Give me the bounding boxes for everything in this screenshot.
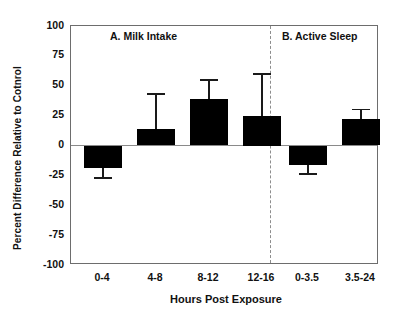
- y-tick-label: -25: [22, 169, 64, 180]
- bar: [243, 116, 281, 146]
- x-axis-title: Hours Post Exposure: [0, 293, 400, 305]
- error-bar-cap: [94, 177, 112, 179]
- y-tick-label: 25: [22, 109, 64, 120]
- x-tick-label: 8-12: [197, 271, 218, 283]
- plot-area: [70, 25, 378, 264]
- error-bar-cap: [147, 93, 165, 95]
- panel-a-title: A. Milk Intake: [110, 30, 177, 42]
- bar-chart-figure: Percent Difference Relative to Cotnrol 1…: [0, 0, 400, 319]
- x-tick-label: 3.5-24: [345, 271, 375, 283]
- bar: [342, 119, 380, 145]
- y-axis-tick-labels: 1007550250-25-50-75-100: [22, 0, 64, 319]
- panel-b-title: B. Active Sleep: [282, 30, 357, 42]
- bar: [84, 146, 122, 169]
- bar: [289, 146, 327, 165]
- x-tick-label: 0-4: [94, 271, 109, 283]
- x-tick-label: 4-8: [147, 271, 162, 283]
- y-tick-label: 75: [22, 49, 64, 60]
- bar: [190, 99, 228, 146]
- y-tick-label: -100: [22, 259, 64, 270]
- error-bar-cap: [253, 73, 271, 75]
- x-tick-label: 12-16: [248, 271, 275, 283]
- x-tick-label: 0-3.5: [295, 271, 319, 283]
- y-tick-label: -75: [22, 229, 64, 240]
- error-bar-cap: [352, 109, 370, 111]
- error-bar-cap: [299, 173, 317, 175]
- y-tick-label: 100: [22, 20, 64, 31]
- bar: [137, 129, 175, 146]
- y-tick-label: -50: [22, 199, 64, 210]
- error-bar-stem: [208, 80, 209, 99]
- y-tick-label: 0: [22, 139, 64, 150]
- error-bar-stem: [155, 94, 156, 129]
- error-bar-stem: [360, 110, 361, 120]
- error-bar-stem: [261, 74, 262, 116]
- error-bar-cap: [200, 79, 218, 81]
- y-tick-label: 50: [22, 79, 64, 90]
